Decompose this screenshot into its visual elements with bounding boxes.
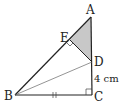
geometry-figure: A E D B C 4 cm <box>0 0 124 111</box>
right-angle-mark-c <box>86 89 92 95</box>
side-ca <box>91 17 92 95</box>
label-dc-length: 4 cm <box>94 73 119 84</box>
label-a: A <box>85 3 95 17</box>
label-b: B <box>4 89 13 103</box>
side-ab <box>15 17 91 95</box>
label-c: C <box>94 90 103 104</box>
label-e: E <box>60 31 69 45</box>
shaded-triangle-aed <box>70 17 92 62</box>
segment-bd <box>15 62 92 95</box>
label-d: D <box>94 55 104 69</box>
